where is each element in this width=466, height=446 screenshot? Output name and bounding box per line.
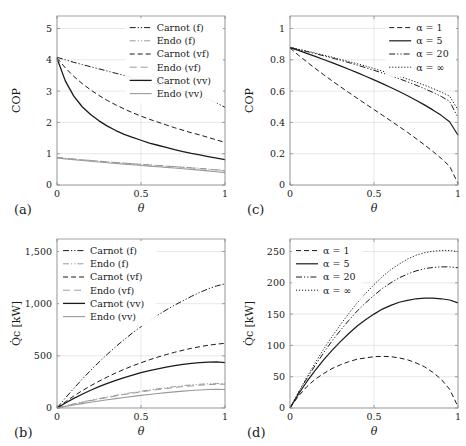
y-tick-label: 1,000 xyxy=(25,298,52,309)
y-tick-label: 1 xyxy=(46,148,52,159)
y-tick-label: 0.8 xyxy=(270,54,285,65)
x-axis-label: θ xyxy=(138,202,145,215)
legend-label: Endo (f) xyxy=(157,35,196,46)
y-tick-label: 3 xyxy=(46,86,52,97)
panel-b: 05001,0001,50000.51θQ̇c [kW](b)Carnot (f… xyxy=(0,223,233,446)
y-tick-label: 1 xyxy=(279,23,285,34)
legend-label: Endo (f) xyxy=(90,258,129,269)
y-axis-label: Q̇c [kW] xyxy=(243,301,256,346)
legend-label: Carnot (vv) xyxy=(90,298,144,309)
legend-label: Carnot (f) xyxy=(90,245,137,256)
y-tick-label: 250 xyxy=(267,246,285,257)
panel-a: 01234500.51θCOP(a)Carnot (f)Endo (f)Carn… xyxy=(0,0,233,223)
legend-label: α = 1 xyxy=(416,22,442,33)
y-tick-label: 0.2 xyxy=(270,148,285,159)
x-axis-label: θ xyxy=(371,425,378,438)
legend-label: Carnot (vv) xyxy=(157,75,211,86)
x-tick-label: 0.5 xyxy=(366,188,381,199)
y-tick-label: 0.6 xyxy=(270,86,285,97)
x-tick-label: 1 xyxy=(222,188,228,199)
x-tick-label: 1 xyxy=(455,411,461,422)
legend-label: Endo (vv) xyxy=(157,88,203,99)
legend: α = 1α = 5α = 20α = ∞ xyxy=(385,18,456,77)
figure-root: 01234500.51θCOP(a)Carnot (f)Endo (f)Carn… xyxy=(0,0,466,446)
legend-label: α = 5 xyxy=(323,258,349,269)
y-tick-label: 0 xyxy=(46,402,52,413)
y-tick-label: 150 xyxy=(267,309,285,320)
y-axis-label: COP xyxy=(10,87,23,112)
y-axis-label: COP xyxy=(243,87,256,112)
legend-label: Carnot (vf) xyxy=(157,48,209,59)
panel-label: (a) xyxy=(14,202,32,217)
y-tick-label: 0 xyxy=(279,179,285,190)
y-tick-label: 100 xyxy=(267,340,285,351)
x-tick-label: 0.5 xyxy=(366,411,381,422)
y-tick-label: 50 xyxy=(273,371,285,382)
panel-c: 00.20.40.60.8100.51θCOP(c)α = 1α = 5α = … xyxy=(233,0,466,223)
legend: Carnot (f)Endo (f)Carnot (vf)Endo (vf)Ca… xyxy=(126,18,223,103)
y-tick-label: 5 xyxy=(46,23,52,34)
x-axis-label: θ xyxy=(371,202,378,215)
legend: Carnot (f)Endo (f)Carnot (vf)Endo (vf)Ca… xyxy=(59,241,156,326)
x-tick-label: 0.5 xyxy=(133,411,148,422)
panel-d: 05010015020025000.51θQ̇c [kW](d)α = 1α =… xyxy=(233,223,466,446)
y-tick-label: 2 xyxy=(46,117,52,128)
legend-label: α = 1 xyxy=(323,245,349,256)
y-tick-label: 0 xyxy=(46,179,52,190)
legend-label: Carnot (f) xyxy=(157,22,204,33)
y-tick-label: 4 xyxy=(46,54,52,65)
legend-label: Carnot (vf) xyxy=(90,271,142,282)
legend-label: Endo (vf) xyxy=(157,62,201,73)
y-tick-label: 0 xyxy=(279,402,285,413)
panel-label: (d) xyxy=(247,425,265,440)
y-tick-label: 1,500 xyxy=(25,246,52,257)
legend-label: α = 20 xyxy=(323,271,356,282)
legend-label: α = ∞ xyxy=(323,285,351,296)
legend-label: α = ∞ xyxy=(416,62,444,73)
x-tick-label: 1 xyxy=(222,411,228,422)
panel-label: (b) xyxy=(14,425,32,440)
y-tick-label: 0.4 xyxy=(270,117,285,128)
x-tick-label: 0 xyxy=(287,411,293,422)
y-axis-label: Q̇c [kW] xyxy=(10,301,23,346)
legend-label: α = 20 xyxy=(416,48,449,59)
legend: α = 1α = 5α = 20α = ∞ xyxy=(292,241,363,300)
legend-label: Endo (vv) xyxy=(90,311,136,322)
panel-label: (c) xyxy=(247,202,264,217)
legend-label: Endo (vf) xyxy=(90,285,134,296)
x-tick-label: 0 xyxy=(54,411,60,422)
x-tick-label: 0 xyxy=(54,188,60,199)
y-tick-label: 500 xyxy=(34,350,52,361)
x-tick-label: 0 xyxy=(287,188,293,199)
legend-label: α = 5 xyxy=(416,35,442,46)
x-tick-label: 1 xyxy=(455,188,461,199)
y-tick-label: 200 xyxy=(267,277,285,288)
x-tick-label: 0.5 xyxy=(133,188,148,199)
x-axis-label: θ xyxy=(138,425,145,438)
